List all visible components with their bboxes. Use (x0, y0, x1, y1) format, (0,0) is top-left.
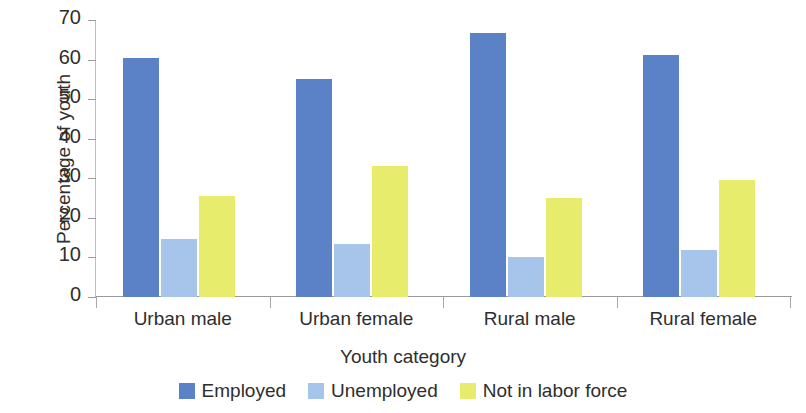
bar[interactable] (719, 180, 755, 297)
legend-item[interactable]: Unemployed (308, 380, 438, 402)
bar[interactable] (470, 33, 506, 297)
bar[interactable] (643, 55, 679, 297)
y-tick-mark (88, 297, 96, 298)
x-category-label: Rural male (443, 308, 617, 330)
y-tick-mark (88, 139, 96, 140)
bar[interactable] (372, 166, 408, 297)
x-tick-mark (270, 297, 271, 308)
x-category-label: Rural female (617, 308, 791, 330)
y-tick-label: 70 (21, 6, 81, 29)
x-tick-mark (96, 297, 97, 308)
y-tick-label: 40 (21, 125, 81, 148)
chart-legend: EmployedUnemployedNot in labor force (0, 380, 806, 402)
y-tick-mark (88, 60, 96, 61)
y-tick-label: 10 (21, 243, 81, 266)
x-category-label: Urban female (270, 308, 444, 330)
y-tick-label: 0 (21, 283, 81, 306)
x-tick-mark (617, 297, 618, 308)
legend-label: Not in labor force (483, 380, 628, 402)
x-tick-mark (790, 297, 791, 308)
plot-area (96, 20, 790, 297)
bar[interactable] (681, 250, 717, 297)
y-tick-label: 20 (21, 204, 81, 227)
y-tick-label: 50 (21, 85, 81, 108)
y-tick-mark (88, 178, 96, 179)
y-tick-mark (88, 257, 96, 258)
legend-swatch-icon (460, 383, 476, 399)
legend-item[interactable]: Not in labor force (460, 380, 628, 402)
legend-swatch-icon (308, 383, 324, 399)
bar[interactable] (296, 79, 332, 297)
x-tick-mark (443, 297, 444, 308)
bar-group (643, 20, 755, 297)
bar-group (123, 20, 235, 297)
bar-chart-figure: Percentage of youth 010203040506070 Urba… (0, 0, 806, 413)
bar[interactable] (199, 196, 235, 297)
x-axis-title: Youth category (0, 346, 806, 368)
y-tick-mark (88, 218, 96, 219)
legend-label: Unemployed (331, 380, 438, 402)
bar-group (470, 20, 582, 297)
legend-label: Employed (202, 380, 287, 402)
x-category-label: Urban male (96, 308, 270, 330)
legend-swatch-icon (179, 383, 195, 399)
y-tick-label: 60 (21, 46, 81, 69)
bar[interactable] (546, 198, 582, 297)
bar[interactable] (123, 58, 159, 297)
bar-group (296, 20, 408, 297)
bar[interactable] (334, 244, 370, 297)
y-tick-mark (88, 99, 96, 100)
bar[interactable] (161, 239, 197, 297)
y-tick-label: 30 (21, 164, 81, 187)
bar[interactable] (508, 257, 544, 297)
legend-item[interactable]: Employed (179, 380, 287, 402)
y-tick-mark (88, 20, 96, 21)
